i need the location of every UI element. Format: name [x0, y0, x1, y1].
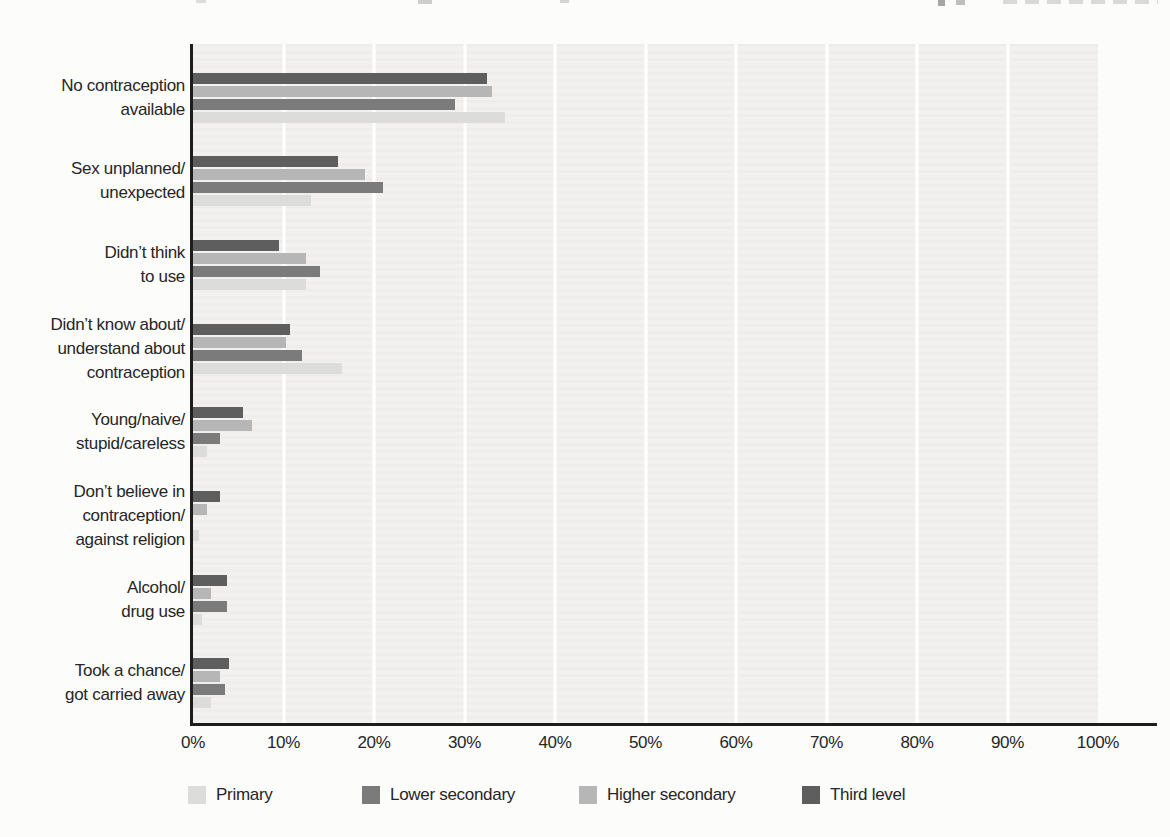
category-label: Young/naive/stupid/careless [0, 391, 185, 475]
bar-primary [193, 614, 202, 625]
bar-group [193, 391, 1098, 475]
category-label: Alcohol/drug use [0, 558, 185, 642]
bar-higher-secondary [193, 86, 492, 97]
bar-third-level [193, 240, 279, 251]
category-label-line: got carried away [0, 683, 185, 707]
x-tick-label: 70% [810, 733, 843, 753]
bar-third-level [193, 575, 227, 586]
legend: PrimaryLower secondaryHigher secondaryTh… [0, 785, 1170, 809]
bar-higher-secondary [193, 588, 211, 599]
bar-primary [193, 363, 342, 374]
bar-third-level [193, 491, 220, 502]
legend-item: Higher secondary [579, 785, 735, 805]
x-tick-label: 30% [448, 733, 481, 753]
bar-lower-secondary [193, 266, 320, 277]
y-axis-line [190, 44, 193, 726]
bar-third-level [193, 658, 229, 669]
legend-item: Lower secondary [362, 785, 515, 805]
category-label-line: drug use [0, 600, 185, 624]
legend-label: Lower secondary [390, 785, 515, 805]
bar-higher-secondary [193, 337, 286, 348]
bar-lower-secondary [193, 350, 302, 361]
legend-swatch [188, 786, 206, 804]
category-label-line: Didn’t know about/ [0, 313, 185, 337]
bar-primary [193, 195, 311, 206]
scanned-chart-page: No contraceptionavailableSex unplanned/u… [0, 0, 1170, 837]
bar-primary [193, 112, 505, 123]
bar-primary [193, 530, 199, 541]
category-label-line: to use [0, 265, 185, 289]
category-label: Took a chance/got carried away [0, 641, 185, 725]
category-labels: No contraceptionavailableSex unplanned/u… [0, 44, 185, 725]
bar-third-level [193, 156, 338, 167]
category-label-line: Alcohol/ [0, 576, 185, 600]
legend-item: Primary [188, 785, 272, 805]
scan-artifact [418, 0, 432, 4]
category-label-line: Young/naive/ [0, 408, 185, 432]
bar-lower-secondary [193, 99, 455, 110]
category-label-line: Took a chance/ [0, 659, 185, 683]
category-label: Didn’t thinkto use [0, 223, 185, 307]
bar-higher-secondary [193, 169, 365, 180]
bar-group [193, 140, 1098, 224]
bar-higher-secondary [193, 420, 252, 431]
bar-third-level [193, 73, 487, 84]
category-label-line: available [0, 98, 185, 122]
bar-group [193, 223, 1098, 307]
bar-lower-secondary [193, 684, 225, 695]
legend-label: Primary [216, 785, 272, 805]
category-label: Sex unplanned/unexpected [0, 140, 185, 224]
bar-primary [193, 279, 306, 290]
bar-primary [193, 697, 211, 708]
scan-artifact [956, 0, 965, 5]
x-tick-label: 100% [1077, 733, 1119, 753]
bar-higher-secondary [193, 253, 306, 264]
legend-label: Third level [830, 785, 905, 805]
category-label-line: unexpected [0, 181, 185, 205]
x-axis-line [190, 723, 1157, 726]
bar-higher-secondary [193, 671, 220, 682]
bar-group [193, 56, 1098, 140]
category-label-line: Don’t believe in [0, 480, 185, 504]
bar-third-level [193, 324, 290, 335]
legend-swatch [802, 786, 820, 804]
scan-artifact [1003, 0, 1158, 4]
category-label-line: Didn’t think [0, 241, 185, 265]
legend-swatch [579, 786, 597, 804]
x-tick-label: 0% [181, 733, 205, 753]
bar-group [193, 641, 1098, 725]
x-tick-label: 40% [538, 733, 571, 753]
category-label-line: Sex unplanned/ [0, 157, 185, 181]
category-label: Didn’t know about/understand aboutcontra… [0, 307, 185, 391]
category-label-line: No contraception [0, 74, 185, 98]
category-label-line: understand about [0, 337, 185, 361]
scan-artifact [560, 0, 569, 3]
category-label: No contraceptionavailable [0, 56, 185, 140]
x-tick-label: 20% [357, 733, 390, 753]
bar-group [193, 474, 1098, 558]
x-axis-tick-labels: 0%10%20%30%40%50%60%70%80%90%100% [193, 733, 1098, 757]
category-label-line: against religion [0, 528, 185, 552]
bar-group [193, 558, 1098, 642]
bar-higher-secondary [193, 504, 207, 515]
x-tick-label: 80% [900, 733, 933, 753]
bar-third-level [193, 407, 243, 418]
scan-artifact [938, 0, 945, 6]
category-label-line: stupid/careless [0, 432, 185, 456]
legend-swatch [362, 786, 380, 804]
legend-label: Higher secondary [607, 785, 735, 805]
bar-groups [193, 44, 1098, 725]
bar-primary [193, 446, 207, 457]
bar-lower-secondary [193, 601, 227, 612]
x-tick-label: 10% [267, 733, 300, 753]
category-label-line: contraception [0, 361, 185, 385]
scan-artifact [196, 0, 206, 3]
x-tick-label: 50% [629, 733, 662, 753]
bar-group [193, 307, 1098, 391]
category-label: Don’t believe incontraception/against re… [0, 474, 185, 558]
bar-lower-secondary [193, 182, 383, 193]
legend-item: Third level [802, 785, 905, 805]
bar-lower-secondary [193, 433, 220, 444]
x-tick-label: 60% [719, 733, 752, 753]
category-label-line: contraception/ [0, 504, 185, 528]
